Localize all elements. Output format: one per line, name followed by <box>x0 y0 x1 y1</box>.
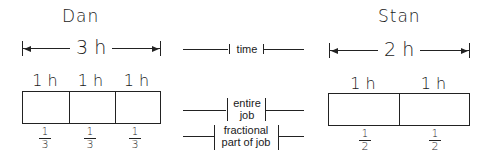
legend-time-tick-left <box>229 44 230 54</box>
legend-time-line-right <box>263 49 304 50</box>
dan-hour-label-1: 1 h <box>22 71 68 90</box>
stan-dim-right-tick <box>469 43 470 58</box>
stan-total-time: 2 h <box>378 38 420 60</box>
stan-fraction-2: 12 <box>425 129 445 152</box>
dan-fraction-2: 13 <box>80 127 100 150</box>
stan-hour-label-2: 1 h <box>398 74 469 93</box>
stan-fraction-1: 12 <box>355 129 375 152</box>
dan-job-bar <box>22 91 161 124</box>
legend-time-line-left <box>183 49 228 50</box>
legend-time-label: time <box>232 43 262 55</box>
dan-fraction-3: 13 <box>125 127 145 150</box>
dan-job-segment-1 <box>23 92 70 123</box>
dan-label: Dan <box>62 6 99 26</box>
legend-entire-tick-left <box>227 98 228 121</box>
dan-hour-label-2: 1 h <box>68 71 113 90</box>
legend-fractional-part-label: fractional part of job <box>216 124 276 148</box>
dan-arrow-right-icon <box>152 46 159 52</box>
dan-job-segment-2 <box>70 92 116 123</box>
dan-job-segment-3 <box>116 92 160 123</box>
stan-job-segment-2 <box>400 94 469 125</box>
dan-fraction-1: 13 <box>35 127 55 150</box>
legend-entire-line-right <box>265 110 304 111</box>
stan-job-bar <box>328 93 470 126</box>
dan-total-time: 3 h <box>70 36 112 58</box>
legend-fraction-tick-right <box>278 125 279 150</box>
legend-entire-line-left <box>183 110 226 111</box>
stan-job-segment-1 <box>329 94 400 125</box>
dan-dim-right-tick <box>160 41 161 56</box>
stan-label: Stan <box>378 6 421 26</box>
legend-entire-job-label: entire job <box>229 97 265 121</box>
dan-arrow-left-icon <box>24 46 31 52</box>
legend-fraction-line-right <box>278 136 304 137</box>
dan-hour-label-3: 1 h <box>113 71 160 90</box>
stan-arrow-right-icon <box>461 48 468 54</box>
legend-fraction-line-left <box>183 136 214 137</box>
stan-hour-label-1: 1 h <box>328 74 398 93</box>
stan-arrow-left-icon <box>331 48 338 54</box>
legend-fraction-tick-left <box>214 125 215 150</box>
